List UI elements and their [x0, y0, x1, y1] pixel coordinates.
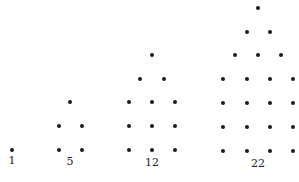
- dot: [268, 77, 272, 81]
- dot: [150, 100, 154, 104]
- dot: [221, 125, 225, 129]
- dot: [173, 148, 177, 152]
- dot: [268, 149, 272, 153]
- dot: [150, 53, 154, 57]
- dot: [245, 77, 249, 81]
- figure-label: 12: [145, 157, 159, 168]
- dot: [291, 77, 295, 81]
- dot: [221, 149, 225, 153]
- figure-label: 5: [67, 156, 74, 167]
- dot: [268, 30, 272, 34]
- dot: [162, 77, 166, 81]
- dot: [291, 101, 295, 105]
- dot: [80, 148, 84, 152]
- dot: [173, 100, 177, 104]
- dot: [291, 149, 295, 153]
- dot: [233, 53, 237, 57]
- dot: [57, 124, 61, 128]
- dot: [150, 124, 154, 128]
- dot: [57, 148, 61, 152]
- dot: [221, 77, 225, 81]
- dot: [256, 6, 260, 10]
- dot: [245, 101, 249, 105]
- figure-label: 1: [9, 155, 16, 166]
- dot: [279, 53, 283, 57]
- dot: [127, 148, 131, 152]
- dot: [245, 30, 249, 34]
- dot: [68, 100, 72, 104]
- pentagonal-numbers-diagram: 151222: [0, 0, 299, 182]
- dot: [221, 101, 225, 105]
- dot: [127, 124, 131, 128]
- dot: [245, 125, 249, 129]
- dot: [268, 125, 272, 129]
- dot: [10, 148, 14, 152]
- dot: [80, 124, 84, 128]
- dot: [173, 124, 177, 128]
- dot: [245, 149, 249, 153]
- figure-label: 22: [251, 158, 265, 169]
- dot: [150, 148, 154, 152]
- dot: [291, 125, 295, 129]
- dot: [256, 53, 260, 57]
- dot: [268, 101, 272, 105]
- dot: [138, 77, 142, 81]
- dot: [127, 100, 131, 104]
